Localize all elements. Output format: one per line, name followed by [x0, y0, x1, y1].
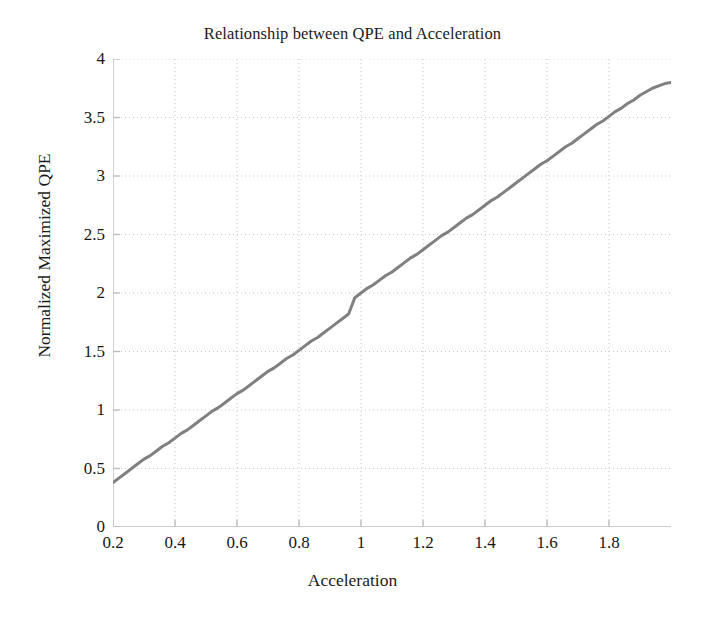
y-tick-label: 3.5	[84, 108, 105, 128]
x-tick-label: 0.4	[164, 533, 185, 553]
plot-area	[113, 59, 671, 527]
x-axis-tick-labels: 0.20.40.60.811.21.41.61.8	[113, 533, 671, 563]
x-tick-label: 0.6	[226, 533, 247, 553]
x-tick-label: 1.2	[412, 533, 433, 553]
axis-lines	[113, 59, 671, 527]
y-axis-title: Normalized Maximized QPE	[34, 126, 55, 386]
x-axis-title: Acceleration	[0, 570, 705, 591]
y-tick-label: 4	[97, 49, 106, 69]
x-tick-label: 1.4	[474, 533, 495, 553]
grid-lines	[113, 59, 671, 527]
x-tick-label: 0.2	[102, 533, 123, 553]
y-tick-label: 1	[97, 400, 106, 420]
x-tick-label: 1.6	[536, 533, 557, 553]
y-tick-label: 2	[97, 283, 106, 303]
data-line	[113, 82, 671, 482]
chart-figure: Relationship between QPE and Acceleratio…	[0, 0, 705, 617]
chart-title: Relationship between QPE and Acceleratio…	[0, 24, 705, 44]
x-tick-label: 1.8	[598, 533, 619, 553]
x-tick-label: 0.8	[288, 533, 309, 553]
y-tick-label: 0.5	[84, 459, 105, 479]
y-tick-label: 1.5	[84, 342, 105, 362]
data-series-group	[113, 82, 671, 482]
x-tick-label: 1	[357, 533, 366, 553]
plot-canvas	[113, 59, 671, 527]
y-tick-label: 3	[97, 166, 106, 186]
y-axis-tick-labels: 00.511.522.533.54	[55, 59, 105, 527]
y-tick-label: 2.5	[84, 225, 105, 245]
